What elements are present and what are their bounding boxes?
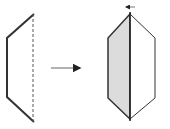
left-shape-outline xyxy=(7,14,34,122)
right-full-shape xyxy=(108,12,155,121)
unshaded-right-half xyxy=(130,14,155,119)
left-half-shape xyxy=(7,14,34,122)
shaded-left-half xyxy=(108,14,130,119)
fold-diagram xyxy=(0,0,170,129)
